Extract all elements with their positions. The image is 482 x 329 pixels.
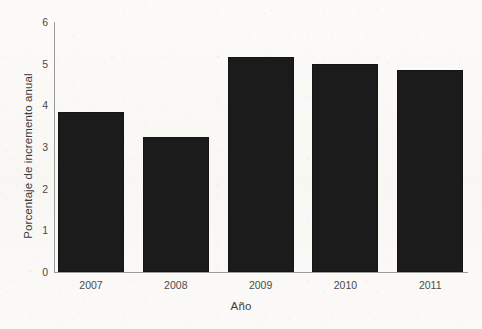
bar [228, 57, 294, 272]
bar [397, 70, 463, 272]
x-tick-label: 2007 [79, 280, 102, 291]
y-tick-label: 3 [18, 142, 48, 153]
x-tick-label: 2011 [419, 280, 442, 291]
y-axis-line [54, 22, 55, 272]
x-axis-line [54, 272, 468, 273]
bar-chart-figure: Porcentaje de incremento anual Año 01234… [0, 0, 482, 329]
y-tick-label: 1 [18, 225, 48, 236]
y-tick-label: 6 [18, 17, 48, 28]
plot-area: 0123456 20072008200920102011 [54, 22, 468, 272]
x-axis-label: Año [0, 300, 482, 312]
y-tick-label: 0 [18, 267, 48, 278]
y-tick-label: 5 [18, 58, 48, 69]
bar [143, 137, 209, 272]
bar [58, 112, 124, 272]
y-tick-label: 2 [18, 183, 48, 194]
x-tick-label: 2010 [334, 280, 357, 291]
y-tick-label: 4 [18, 100, 48, 111]
bar [312, 64, 378, 272]
x-tick-label: 2008 [164, 280, 187, 291]
x-tick-label: 2009 [249, 280, 272, 291]
